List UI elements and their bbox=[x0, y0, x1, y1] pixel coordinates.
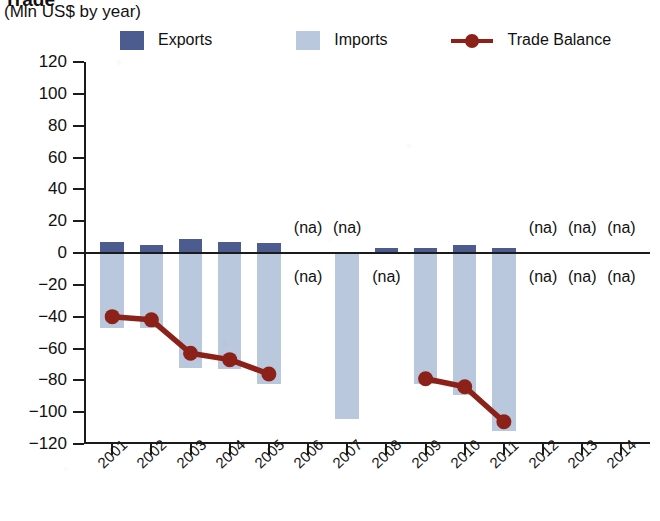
y-axis-tick-label: 80 bbox=[48, 116, 67, 136]
plot-area: 120100806040200−20−40−60−80−100−120 (na)… bbox=[84, 62, 650, 444]
chart-subtitle: (Mln US$ by year) bbox=[4, 2, 141, 22]
na-label-2013-below: (na) bbox=[568, 268, 596, 286]
y-axis-tick-label: 20 bbox=[48, 211, 67, 231]
y-axis-tick bbox=[73, 443, 84, 445]
bar-imports-2010 bbox=[453, 253, 477, 395]
na-label-2013-above: (na) bbox=[568, 219, 596, 237]
bar-imports-2011 bbox=[492, 253, 516, 431]
legend-label-trade-balance: Trade Balance bbox=[508, 31, 611, 49]
na-label-2012-below: (na) bbox=[529, 268, 557, 286]
y-axis-tick bbox=[73, 379, 84, 381]
legend-label-imports: Imports bbox=[334, 31, 387, 49]
y-axis-tick-label: −80 bbox=[38, 370, 67, 390]
na-label-2007-above: (na) bbox=[333, 219, 361, 237]
y-axis-tick-label: −40 bbox=[38, 307, 67, 327]
y-axis-tick bbox=[73, 61, 84, 63]
legend-item-imports[interactable]: Imports bbox=[296, 31, 387, 50]
bar-imports-2009 bbox=[414, 253, 438, 384]
na-label-2008-below: (na) bbox=[372, 268, 400, 286]
bar-imports-2007 bbox=[335, 253, 359, 419]
y-axis-tick-label: 100 bbox=[39, 84, 67, 104]
na-label-2014-below: (na) bbox=[607, 268, 635, 286]
x-axis-line bbox=[84, 442, 650, 444]
legend-label-exports: Exports bbox=[158, 31, 212, 49]
legend-item-exports[interactable]: Exports bbox=[120, 31, 212, 50]
zero-baseline bbox=[84, 252, 650, 254]
bar-imports-2002 bbox=[140, 253, 164, 328]
y-axis-tick-label: 120 bbox=[39, 52, 67, 72]
y-axis-tick bbox=[73, 316, 84, 318]
y-axis-tick-label: 60 bbox=[48, 148, 67, 168]
bar-imports-2005 bbox=[257, 253, 281, 384]
y-axis-tick bbox=[73, 220, 84, 222]
na-label-2006-below: (na) bbox=[294, 268, 322, 286]
na-label-2014-above: (na) bbox=[607, 219, 635, 237]
y-axis-tick-label: −100 bbox=[29, 402, 67, 422]
chart-legend: Exports Imports Trade Balance bbox=[120, 28, 611, 52]
y-axis-tick bbox=[73, 125, 84, 127]
y-axis-tick bbox=[73, 157, 84, 159]
y-axis-tick-label: −20 bbox=[38, 275, 67, 295]
exports-swatch-icon bbox=[120, 31, 144, 50]
bar-imports-2001 bbox=[100, 253, 124, 328]
y-axis-tick bbox=[73, 188, 84, 190]
na-label-2012-above: (na) bbox=[529, 219, 557, 237]
y-axis-tick-label: 0 bbox=[58, 243, 67, 263]
trade-balance-line-icon bbox=[450, 31, 494, 50]
na-label-2006-above: (na) bbox=[294, 219, 322, 237]
bar-exports-2003 bbox=[179, 239, 203, 253]
y-axis-tick bbox=[73, 348, 84, 350]
bar-imports-2004 bbox=[218, 253, 242, 369]
y-axis-tick-label: −60 bbox=[38, 339, 67, 359]
y-axis-tick bbox=[73, 411, 84, 413]
imports-swatch-icon bbox=[296, 31, 320, 50]
bar-imports-2003 bbox=[179, 253, 203, 368]
legend-item-trade-balance[interactable]: Trade Balance bbox=[450, 31, 611, 50]
y-axis-tick-label: 40 bbox=[48, 179, 67, 199]
y-axis-tick-label: −120 bbox=[29, 434, 67, 454]
y-axis-tick bbox=[73, 284, 84, 286]
y-axis-tick bbox=[73, 93, 84, 95]
y-axis-tick bbox=[73, 252, 84, 254]
